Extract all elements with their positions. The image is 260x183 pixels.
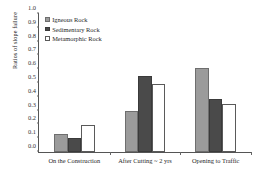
legend-swatch-icon [45, 17, 50, 22]
bar-group [180, 14, 251, 152]
y-tick-label: 0.3 [28, 100, 36, 107]
legend-item-igneous[interactable]: Igneous Rock [45, 16, 102, 23]
legend-swatch-icon [45, 27, 50, 32]
y-tick-label: 0.9 [28, 17, 36, 24]
x-group-label: After Cutting ~ 2 yrs [118, 157, 172, 164]
legend-label: Igneous Rock [52, 16, 87, 23]
bar-metamorphic [222, 104, 236, 152]
y-tick-label: 0.1 [28, 128, 36, 135]
legend-label: Sedimentary Rock [52, 26, 99, 33]
y-axis-title: Ratios of slope failure [11, 0, 18, 96]
y-tick-label: 0.4 [28, 86, 36, 93]
x-axis-line [38, 152, 252, 153]
x-separator-mark [251, 152, 252, 155]
y-tick-label: 0.6 [28, 59, 36, 66]
y-tick-label: 0.8 [28, 31, 36, 38]
bar-sedimentary [209, 99, 223, 152]
bar-metamorphic [152, 84, 166, 152]
legend-item-sedimentary[interactable]: Sedimentary Rock [45, 26, 102, 33]
y-tick-label: 0.7 [28, 45, 36, 52]
bar-sedimentary [138, 76, 152, 152]
bar-igneous [195, 68, 209, 152]
x-separator-mark [180, 152, 181, 155]
bar-sedimentary [68, 138, 82, 152]
bar-group [110, 14, 181, 152]
y-tick-label: 0.5 [28, 73, 36, 80]
bar-igneous [54, 134, 68, 152]
bar-igneous [125, 111, 139, 152]
legend-item-metamorphic[interactable]: Metamorphic Rock [45, 35, 102, 42]
bar-metamorphic [81, 125, 95, 152]
y-tick-label: 0.2 [28, 114, 36, 121]
bar-chart-figure: Ratios of slope failure 0.00.10.20.30.40… [0, 0, 260, 183]
legend-swatch-icon [45, 36, 50, 41]
x-group-label: Opening to Traffic [192, 157, 239, 164]
y-tick-label: 0.0 [28, 142, 36, 149]
x-group-label: On the Construction [48, 157, 100, 164]
x-separator-mark [110, 152, 111, 155]
y-tick-label: 1.0 [28, 4, 36, 11]
chart-legend: Igneous RockSedimentary RockMetamorphic … [45, 16, 102, 42]
legend-label: Metamorphic Rock [52, 35, 102, 42]
